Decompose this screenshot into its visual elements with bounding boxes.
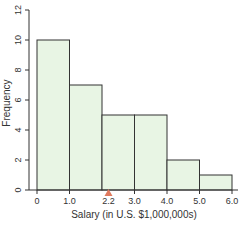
- x-tick-label: 5.0: [193, 196, 206, 206]
- y-tick-label: 8: [13, 67, 23, 72]
- y-ticks: 024681012: [13, 5, 29, 193]
- histogram-bars: [37, 40, 232, 190]
- x-tick-label: 4.0: [161, 196, 174, 206]
- x-axis-label: Salary (in U.S. $1,000,000s): [71, 209, 197, 220]
- y-tick-label: 6: [13, 97, 23, 102]
- y-tick-label: 2: [13, 157, 23, 162]
- x-ticks: 01.02.23.04.05.06.0: [34, 190, 238, 206]
- x-tick-label: 2.2: [102, 196, 115, 206]
- x-tick-label: 1.0: [63, 196, 76, 206]
- histogram-bar: [102, 115, 135, 190]
- histogram-bar: [167, 160, 200, 190]
- y-tick-label: 0: [13, 187, 23, 192]
- histogram-bar: [70, 85, 103, 190]
- y-tick-label: 4: [13, 127, 23, 132]
- histogram-bar: [135, 115, 168, 190]
- x-tick-label: 3.0: [128, 196, 141, 206]
- histogram-chart: 024681012 01.02.23.04.05.06.0 Frequency …: [0, 0, 249, 225]
- y-tick-label: 10: [13, 35, 23, 45]
- histogram-bar: [200, 175, 233, 190]
- x-tick-label: 6.0: [226, 196, 239, 206]
- histogram-bar: [37, 40, 70, 190]
- y-axis-label: Frequency: [1, 79, 12, 126]
- x-tick-label: 0: [34, 196, 39, 206]
- y-tick-label: 12: [13, 5, 23, 15]
